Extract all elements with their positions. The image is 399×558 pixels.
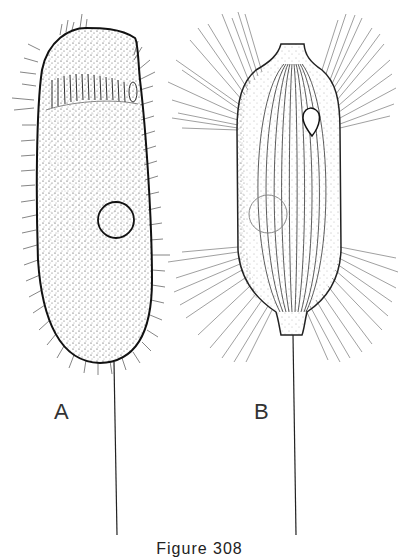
panel-label-a: A	[54, 399, 69, 425]
organism-a	[12, 14, 170, 535]
organism-a-caudal-filament	[114, 362, 117, 535]
figure-caption: Figure 308	[0, 540, 399, 558]
organism-b	[168, 12, 398, 535]
panel-label-b: B	[254, 399, 269, 425]
organism-b-caudal-filament	[293, 335, 296, 535]
